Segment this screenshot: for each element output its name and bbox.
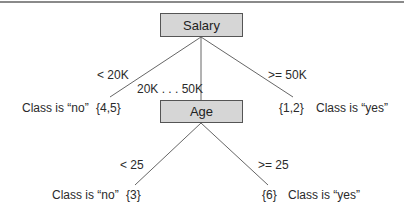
branch-label-gte-25: >= 25 [258,158,289,172]
leaf-class-no-2: Class is “no” [52,188,119,202]
leaf-class-no-1: Class is “no” [22,101,89,115]
leaf-set-3: {3} [126,188,141,202]
branch-label-lt-25: < 25 [120,158,144,172]
branch-label-20k-50k: 20K . . . 50K [137,82,203,96]
leaf-class-yes-1: Class is “yes” [316,101,388,115]
age-node: Age [160,100,243,123]
leaf-set-1-2: {1,2} [279,101,304,115]
leaf-class-yes-2: Class is “yes” [288,188,360,202]
leaf-set-6: {6} [262,188,277,202]
age-node-label: Age [190,104,213,119]
branch-label-lt-20k: < 20K [97,68,129,82]
branch-label-gte-50k: >= 50K [268,68,307,82]
leaf-set-4-5: {4,5} [96,101,121,115]
salary-node-label: Salary [183,18,220,33]
salary-node: Salary [160,13,243,37]
